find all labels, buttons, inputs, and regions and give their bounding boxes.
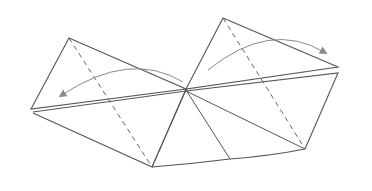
left-arrow <box>62 69 183 95</box>
right-arrow <box>208 40 324 70</box>
right-flap-upper <box>186 18 338 89</box>
left-flap-upper <box>31 38 186 109</box>
bottom-edge <box>152 149 305 167</box>
center-inner-line-1 <box>152 90 186 167</box>
origami-diagram <box>0 0 372 191</box>
center-inner-line-2 <box>186 90 230 159</box>
right-flap-lower <box>186 73 338 149</box>
